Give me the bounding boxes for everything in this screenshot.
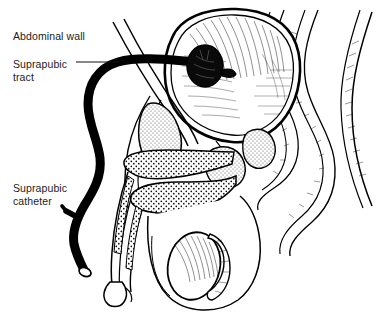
- label-suprapubic-tract-line2: tract: [13, 71, 34, 83]
- label-suprapubic-tract-line1: Suprapubic: [13, 58, 67, 70]
- label-suprapubic-catheter: Suprapubic catheter: [13, 182, 67, 208]
- label-abdominal-wall: Abdominal wall: [13, 30, 85, 43]
- seminal-vesicle: [243, 129, 276, 168]
- label-suprapubic-catheter-line1: Suprapubic: [13, 182, 67, 194]
- label-suprapubic-catheter-line2: catheter: [13, 195, 52, 207]
- label-suprapubic-tract: Suprapubic tract: [13, 58, 67, 84]
- suprapubic-catheter-illustration: [0, 0, 382, 319]
